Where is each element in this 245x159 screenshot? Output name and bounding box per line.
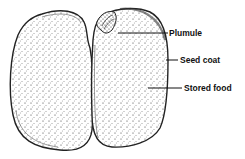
seed-coat-label: Seed coat	[180, 55, 220, 65]
left-cotyledon	[10, 11, 93, 151]
plumule-label: Plumule	[169, 28, 202, 38]
stored-food-label: Stored food	[184, 83, 232, 93]
seed-diagram	[0, 0, 245, 159]
